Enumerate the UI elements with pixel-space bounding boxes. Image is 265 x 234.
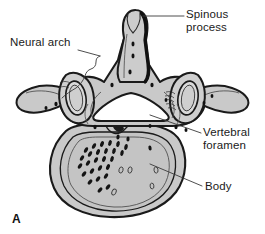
label-body: Body bbox=[205, 180, 232, 193]
label-spinous-process: Spinous process bbox=[186, 8, 228, 34]
panel-letter: A bbox=[12, 212, 21, 226]
vertebra-figure: Spinous process Neural arch Vertebral fo… bbox=[0, 0, 265, 234]
label-vertebral-foramen: Vertebral foramen bbox=[203, 126, 250, 152]
label-neural-arch: Neural arch bbox=[10, 36, 71, 49]
leader-line-neural-arch bbox=[78, 50, 100, 56]
